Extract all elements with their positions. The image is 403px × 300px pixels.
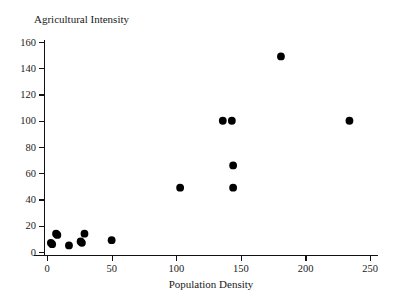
- y-tick-label: 60: [26, 168, 37, 179]
- x-axis-ticks: 050100150200250: [44, 256, 378, 275]
- y-tick-label: 40: [26, 194, 37, 205]
- x-tick-label: 150: [233, 263, 249, 274]
- y-tick-label: 120: [20, 89, 36, 100]
- data-points-group: [47, 53, 353, 250]
- y-tick-label: 160: [20, 37, 36, 48]
- y-tick-label: 20: [26, 220, 37, 231]
- x-tick-label: 50: [106, 263, 117, 274]
- data-point: [176, 184, 184, 192]
- scatter-plot-svg: Agricultural Intensity 02040608010012014…: [0, 0, 403, 300]
- y-axis-ticks: 020406080100120140160: [20, 37, 44, 258]
- data-point: [48, 240, 56, 248]
- y-axis-title: Agricultural Intensity: [34, 13, 130, 25]
- data-point: [53, 231, 61, 239]
- x-tick-label: 0: [44, 263, 49, 274]
- y-tick-label: 80: [26, 142, 37, 153]
- data-point: [65, 242, 73, 250]
- data-point: [78, 239, 86, 247]
- y-tick-label: 0: [31, 247, 36, 258]
- x-tick-label: 250: [362, 263, 378, 274]
- data-point: [228, 117, 236, 125]
- data-point: [81, 230, 89, 238]
- data-point: [219, 117, 227, 125]
- data-point: [108, 236, 116, 244]
- y-tick-label: 140: [20, 63, 36, 74]
- chart-figure: Agricultural Intensity 02040608010012014…: [0, 0, 403, 300]
- data-point: [229, 161, 237, 169]
- data-point: [277, 53, 285, 61]
- data-point: [229, 184, 237, 192]
- x-tick-label: 100: [168, 263, 184, 274]
- x-axis-title: Population Density: [169, 278, 254, 290]
- y-tick-label: 100: [20, 115, 36, 126]
- x-tick-label: 200: [298, 263, 314, 274]
- data-point: [346, 117, 354, 125]
